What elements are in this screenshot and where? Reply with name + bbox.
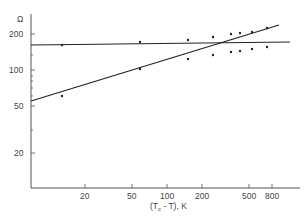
y-tick-20: 20	[14, 148, 24, 158]
x-ticks	[85, 184, 272, 188]
y-tick-50: 50	[14, 101, 24, 111]
y-unit-label: Ω	[17, 14, 23, 24]
lower-data-points	[61, 46, 268, 97]
horizontal-fit-line	[31, 42, 290, 45]
y-ticks	[31, 34, 35, 153]
x-tick-100: 100	[160, 191, 174, 201]
y-tick-100: 100	[9, 65, 23, 75]
x-tick-20: 20	[80, 191, 90, 201]
x-tick-200: 200	[195, 191, 209, 201]
x-tick-800: 800	[265, 191, 279, 201]
x-tick-500: 500	[242, 191, 256, 201]
chart-canvas: Ω 200 100 50 20 20 50 100 200 500 800 (T…	[0, 0, 308, 217]
y-tick-200: 200	[9, 29, 23, 39]
x-tick-50: 50	[127, 191, 137, 201]
x-axis-title: (Tc - T), K	[150, 201, 187, 212]
sloped-fit-line	[31, 25, 279, 101]
